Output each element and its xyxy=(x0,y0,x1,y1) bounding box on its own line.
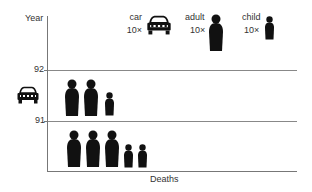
x-axis-title: Deaths xyxy=(150,174,179,184)
gridline-92 xyxy=(47,70,297,71)
x-axis xyxy=(47,171,297,172)
row-91-adult-1 xyxy=(66,130,82,168)
y-axis xyxy=(47,16,48,171)
legend-child-icon xyxy=(264,16,275,40)
row-91-adult-2 xyxy=(85,130,101,168)
legend-car-multiplier: 10× xyxy=(122,25,142,35)
legend-child-multiplier: 10× xyxy=(244,25,259,35)
legend-car-label: car xyxy=(126,12,142,22)
row-91-child-2 xyxy=(137,144,148,168)
row-91-adult-3 xyxy=(104,130,120,168)
car-icon xyxy=(16,86,40,104)
row-92-child-1 xyxy=(104,92,115,116)
legend-adult-label: adult xyxy=(185,12,205,22)
row-91-child-1 xyxy=(123,144,134,168)
row-92-adult-1 xyxy=(64,79,80,117)
legend-adult-icon xyxy=(208,14,224,52)
tick-92 xyxy=(44,70,48,71)
legend-child-label: child xyxy=(242,12,261,22)
y-tick-label-92: 92 xyxy=(34,64,44,74)
y-axis-title: Year xyxy=(25,13,43,23)
gridline-91 xyxy=(47,121,297,122)
row-92-adult-2 xyxy=(83,79,99,117)
y-tick-label-91: 91 xyxy=(35,115,45,125)
legend-car-icon xyxy=(145,15,173,35)
legend-adult-multiplier: 10× xyxy=(190,25,205,35)
